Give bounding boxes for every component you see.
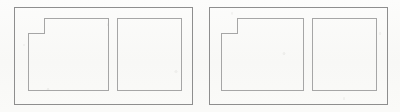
right-panel [209, 7, 387, 104]
left-panel-frame [14, 7, 192, 104]
left-plain-rectangle [117, 18, 181, 90]
line-drawing-svg [0, 0, 400, 112]
right-plain-rectangle [312, 18, 376, 90]
left-panel [14, 7, 192, 104]
right-panel-frame [209, 7, 387, 104]
diagram-canvas [0, 0, 400, 112]
right-stepped-shape [221, 18, 303, 90]
left-notched-square [28, 18, 108, 90]
